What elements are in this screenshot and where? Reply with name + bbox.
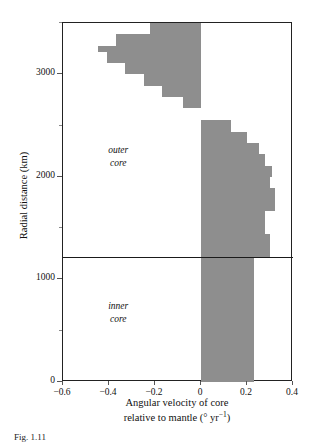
- y-axis-tick: [57, 381, 62, 382]
- x-axis-title-line2: relative to mantle (° yr−1): [124, 412, 231, 423]
- annotation-inner-core-line1: inner: [108, 301, 128, 311]
- annotation-outer-core-line2: core: [110, 158, 127, 168]
- velocity-bar: [201, 234, 270, 257]
- velocity-bar: [201, 211, 265, 235]
- x-axis-tick: [62, 381, 63, 385]
- x-axis-tick: [154, 381, 155, 385]
- y-axis-minor-tick: [59, 22, 62, 23]
- velocity-bar: [201, 257, 254, 382]
- velocity-bar: [201, 143, 259, 154]
- y-axis-tick: [57, 73, 62, 74]
- x-axis-tick: [200, 381, 201, 385]
- inner-core-boundary-line: [63, 257, 293, 258]
- x-axis-title: Angular velocity of core relative to man…: [62, 396, 292, 424]
- y-axis-tick: [57, 176, 62, 177]
- plot-area: outer core inner core: [62, 22, 292, 381]
- x-axis-tick: [108, 381, 109, 385]
- annotation-outer-core: outer core: [78, 144, 158, 170]
- velocity-bar: [150, 23, 201, 34]
- y-axis-tick: [57, 278, 62, 279]
- y-axis-tick-label: 1000: [14, 272, 55, 282]
- figure-container: outer core inner core −0.6−0.4−0.200.20.…: [0, 0, 312, 442]
- velocity-bar: [183, 97, 201, 108]
- velocity-bar: [201, 154, 265, 165]
- velocity-bar: [201, 132, 247, 143]
- velocity-bar: [125, 63, 201, 74]
- velocity-bar: [201, 120, 231, 131]
- velocity-bar: [162, 86, 201, 97]
- annotation-outer-core-line1: outer: [108, 145, 128, 155]
- y-axis-title: Radial distance (km): [18, 126, 29, 266]
- velocity-bar: [98, 46, 202, 52]
- velocity-bar: [144, 74, 202, 85]
- figure-caption: Fig. 1.11: [14, 432, 304, 442]
- y-axis-tick-label: 3000: [14, 67, 55, 77]
- velocity-bar: [116, 34, 201, 45]
- velocity-bar: [201, 177, 270, 188]
- y-axis-minor-tick: [59, 330, 62, 331]
- annotation-inner-core-line2: core: [110, 314, 127, 324]
- y-axis-minor-tick: [59, 125, 62, 126]
- annotation-inner-core: inner core: [78, 300, 158, 326]
- x-axis-title-line1: Angular velocity of core: [126, 397, 229, 408]
- velocity-bar: [107, 52, 201, 63]
- y-axis-minor-tick: [59, 227, 62, 228]
- x-axis-tick: [292, 381, 293, 385]
- y-axis-tick-label: 0: [14, 375, 55, 385]
- x-axis-tick: [246, 381, 247, 385]
- velocity-bar: [201, 166, 272, 177]
- velocity-bar: [201, 188, 275, 211]
